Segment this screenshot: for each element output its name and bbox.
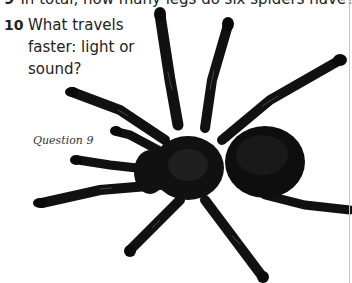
question-text-line: sound? (4, 58, 134, 80)
image-caption: Question 9 (33, 134, 93, 147)
page-edge-divider (349, 0, 350, 283)
question-number: 9 (4, 0, 14, 8)
question-text-line: What travels (28, 16, 124, 34)
question-10: 10What travels faster: light or sound? (4, 14, 134, 80)
question-9: 9In total, how many legs do six spiders … (4, 0, 352, 8)
question-text-line: faster: light or (4, 36, 134, 58)
quiz-page: 9In total, how many legs do six spiders … (0, 0, 352, 283)
question-number: 10 (4, 14, 28, 36)
question-text: In total, how many legs do six spiders h… (20, 0, 352, 8)
